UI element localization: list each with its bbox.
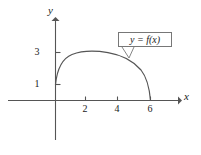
x-axis-arrowhead [178,97,182,105]
function-graph-figure: y x 2 4 6 3 1 y = f(x) [0,0,201,155]
y-axis-arrowhead [52,17,60,21]
y-tick-label-3: 3 [32,46,42,57]
function-callout-label: y = f(x) [130,34,160,45]
x-tick-label-6: 6 [143,103,157,114]
x-axis-label: x [184,90,189,102]
graph-canvas [0,0,201,155]
x-tick-label-4: 4 [110,103,124,114]
y-tick-label-1: 1 [32,78,42,89]
y-axis-label: y [48,4,53,16]
function-callout-box: y = f(x) [118,32,172,47]
function-curve [56,51,151,100]
x-tick-label-2: 2 [78,103,92,114]
callout-leader-line [122,47,134,58]
